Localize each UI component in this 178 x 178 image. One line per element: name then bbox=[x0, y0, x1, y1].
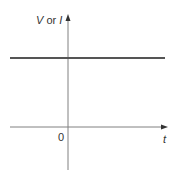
origin-label: 0 bbox=[58, 132, 64, 143]
y-axis-label-or: or bbox=[43, 14, 59, 26]
y-axis-label: V or I bbox=[36, 15, 62, 26]
y-axis-label-i: I bbox=[59, 14, 62, 26]
x-axis-label: t bbox=[163, 134, 166, 145]
graph-canvas bbox=[0, 0, 178, 178]
x-axis-arrow-icon bbox=[161, 125, 168, 130]
y-axis-arrow-icon bbox=[66, 14, 71, 21]
